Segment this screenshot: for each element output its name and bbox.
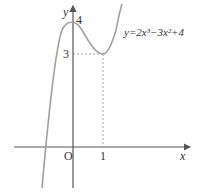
x-axis-label: x [179,149,186,163]
origin-label: O [64,149,73,163]
equation-label: y=2x³−3x²+4 [123,26,185,38]
cubic-curve [42,4,122,188]
x-tick-1: 1 [100,149,106,163]
y-tick-4: 4 [76,13,82,27]
y-tick-3: 3 [63,47,69,61]
y-axis-label: y [62,5,69,19]
cubic-graph: y 4 3 O 1 x y=2x³−3x²+4 [0,0,198,196]
